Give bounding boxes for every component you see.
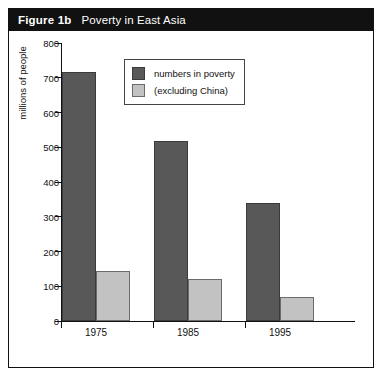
bar <box>154 141 188 321</box>
legend-item: numbers in poverty <box>132 65 235 82</box>
x-axis-tick-label: 1995 <box>246 327 314 338</box>
y-axis-label: millions of people <box>17 23 28 143</box>
bar <box>62 72 96 321</box>
y-axis-tick-mark <box>55 77 61 78</box>
bar <box>96 271 130 321</box>
y-axis-tick-labels: 8007006005004003002001000 <box>33 31 59 369</box>
chart-plot-area: millions of people 800700600500400300200… <box>9 31 373 369</box>
legend-swatch-icon <box>132 67 145 80</box>
legend-swatch-icon <box>132 84 145 97</box>
chart-legend: numbers in poverty (excluding China) <box>124 59 245 105</box>
bar-group <box>62 43 130 321</box>
x-axis-tick-label: 1985 <box>154 327 222 338</box>
page-title: Poverty in East Asia <box>82 14 186 26</box>
y-axis-tick-mark <box>55 286 61 287</box>
bar <box>188 279 222 321</box>
y-axis-tick-mark <box>55 216 61 217</box>
figure-title-bar: Figure 1b Poverty in East Asia <box>9 9 373 31</box>
bar-group <box>246 43 314 321</box>
group-spacer <box>222 320 246 321</box>
legend-label: numbers in poverty <box>154 68 235 79</box>
legend-item: (excluding China) <box>132 82 235 99</box>
y-axis-tick-mark <box>55 182 61 183</box>
y-axis-tick-mark <box>55 147 61 148</box>
y-axis-tick-mark <box>55 251 61 252</box>
bar <box>246 203 280 321</box>
y-axis-tick-mark <box>55 43 61 44</box>
y-axis-tick-mark <box>55 112 61 113</box>
bar <box>280 297 314 321</box>
legend-label: (excluding China) <box>154 85 228 96</box>
figure-container: Figure 1b Poverty in East Asia millions … <box>8 8 374 368</box>
group-spacer <box>130 320 154 321</box>
x-axis-line <box>61 321 355 322</box>
x-axis-tick-label: 1975 <box>62 327 130 338</box>
